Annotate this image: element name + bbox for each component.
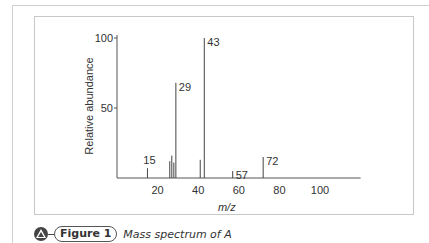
x-tick-label: 100 [311, 184, 329, 196]
figure-label: Figure 1 [54, 226, 117, 242]
y-axis-label: Relative abundance [83, 57, 95, 154]
x-tick-label: 80 [273, 184, 285, 196]
x-axis-label: m/z [218, 201, 236, 213]
x-tick-label: 20 [151, 184, 163, 196]
peak-label: 43 [207, 36, 219, 48]
x-tick-label: 40 [192, 184, 204, 196]
peak-label: 72 [266, 155, 278, 167]
peak-label: 29 [179, 81, 191, 93]
figure-caption-text: Mass spectrum of A [123, 228, 231, 241]
y-tick-label: 100 [95, 32, 113, 44]
peak-label: 15 [143, 154, 155, 166]
figure-caption: Figure 1 Mass spectrum of A [34, 225, 232, 243]
peak-label: 57 [236, 169, 248, 181]
triangle-badge-icon [34, 227, 48, 241]
y-tick-label: 50 [101, 102, 113, 114]
mass-spectrum-chart: 5010020406080100m/zRelative abundance152… [0, 0, 429, 243]
x-tick-label: 60 [233, 184, 245, 196]
